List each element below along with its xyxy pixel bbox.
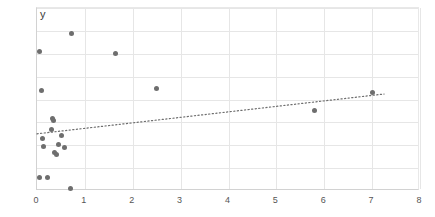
x-axis-tick-label: 6 [308, 196, 338, 205]
data-point [37, 49, 42, 54]
data-point [69, 31, 74, 36]
data-point [370, 90, 375, 95]
data-point [41, 144, 46, 149]
x-axis-tick-label: 8 [404, 196, 434, 205]
scatter-chart: y 00,511,522,533,54 012345678 [0, 0, 435, 217]
x-axis-tick-label: 4 [213, 196, 243, 205]
data-point [54, 152, 59, 157]
gridline-vertical [420, 8, 421, 189]
data-point [37, 175, 42, 180]
x-axis-tick-label: 2 [117, 196, 147, 205]
data-point [51, 118, 56, 123]
trendline [37, 8, 420, 191]
x-axis-tick-label: 7 [356, 196, 386, 205]
x-axis-tick-label: 3 [165, 196, 195, 205]
x-axis-tick-label: 0 [21, 196, 51, 205]
data-point [154, 86, 159, 91]
data-point [49, 127, 54, 132]
plot-area [36, 7, 419, 190]
data-point [45, 175, 50, 180]
data-point [56, 142, 61, 147]
x-axis-tick-label: 1 [69, 196, 99, 205]
x-axis-tick-label: 5 [260, 196, 290, 205]
trendline-path [37, 94, 384, 134]
